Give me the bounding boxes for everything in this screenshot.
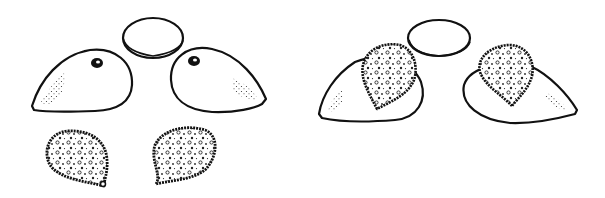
textured-seed-right xyxy=(154,128,215,184)
seed-coat-left-with-seed xyxy=(319,44,423,121)
disc-icon xyxy=(123,18,183,58)
seed-drawing xyxy=(0,0,605,198)
right-panel xyxy=(319,20,577,123)
seed-coat-left xyxy=(32,50,132,112)
left-panel xyxy=(32,18,266,187)
seed-coat-right xyxy=(171,48,266,112)
disc-icon xyxy=(408,20,470,56)
textured-seed-left xyxy=(47,131,107,187)
seed-coat-right-with-seed xyxy=(463,45,577,123)
illustration-canvas xyxy=(0,0,605,198)
